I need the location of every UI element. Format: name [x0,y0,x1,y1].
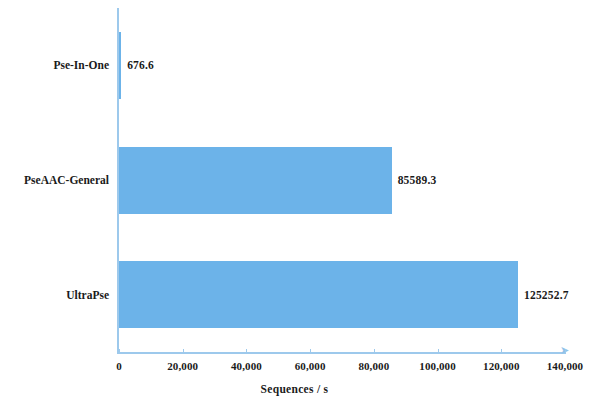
category-axis-labels: Pse-In-OnePseAAC-GeneralUltraPse [0,0,117,405]
category-label: Pse-In-One [53,59,109,71]
bar-value-label: 676.6 [127,59,154,71]
bar-value-label: 85589.3 [398,174,437,186]
bar[interactable] [119,32,121,99]
bar-value-label: 125252.7 [524,289,569,301]
bar-row: 676.6 [119,32,565,99]
x-axis-tick-label: 140,000 [547,360,583,372]
category-label: UltraPse [66,289,109,301]
x-axis-tick-label: 40,000 [231,360,262,372]
x-axis-tick-label: 120,000 [483,360,519,372]
bar[interactable] [119,261,518,328]
bar-row: 125252.7 [119,261,565,328]
bar-row: 85589.3 [119,147,565,214]
bar-chart: ➤ Pse-In-OnePseAAC-GeneralUltraPse 676.6… [0,0,589,405]
x-axis-tick-label: 0 [116,360,122,372]
x-axis-tick-label: 100,000 [419,360,455,372]
x-axis-title: Sequences / s [0,383,589,395]
x-axis-tick-label: 80,000 [358,360,389,372]
x-axis-line [117,352,565,354]
category-label: PseAAC-General [24,174,109,186]
x-axis-tick-label: 20,000 [167,360,198,372]
bar[interactable] [119,147,392,214]
plot-area: 676.685589.3125252.7 [119,8,565,352]
x-axis-tick-label: 60,000 [295,360,326,372]
x-axis-tick [565,349,566,354]
